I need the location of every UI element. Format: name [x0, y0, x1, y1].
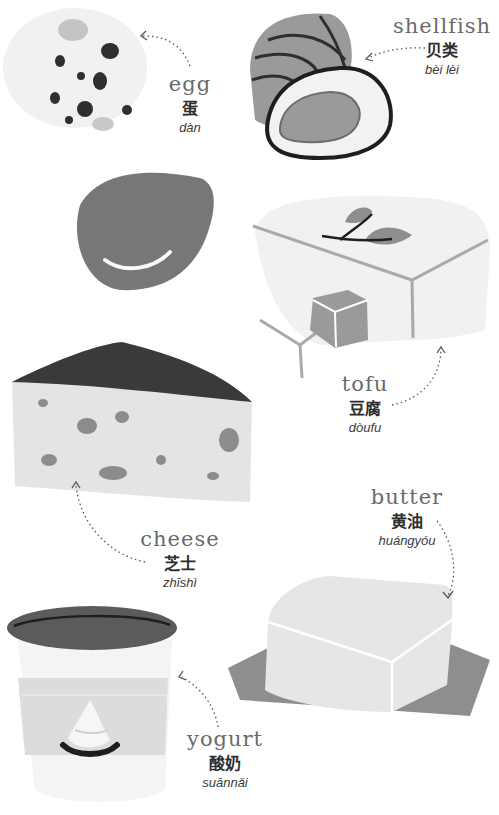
speckled-egg-illustration	[3, 8, 147, 131]
english-word: cheese	[135, 527, 225, 551]
chinese-word: 芝士	[135, 553, 225, 575]
yogurt-illustration	[7, 606, 177, 802]
label-yogurt: yogurt 酸奶 suānnǎi	[180, 727, 270, 791]
chinese-word: 豆腐	[330, 398, 400, 420]
shellfish-illustration	[250, 13, 391, 158]
chinese-word: 蛋	[160, 98, 220, 120]
pinyin: zhīshì	[135, 575, 225, 591]
chinese-word: 贝类	[392, 40, 492, 62]
english-word: yogurt	[180, 727, 270, 751]
english-word: shellfish	[392, 14, 492, 38]
label-cheese: cheese 芝士 zhīshì	[135, 527, 225, 591]
label-egg: egg 蛋 dàn	[160, 72, 220, 136]
tofu-illustration	[253, 196, 490, 378]
pinyin: huángyóu	[362, 533, 452, 549]
yogurt-arrow	[182, 677, 218, 727]
chinese-word: 酸奶	[180, 753, 270, 775]
pinyin: suānnǎi	[180, 775, 270, 791]
english-word: egg	[160, 72, 220, 96]
pinyin: bèi lèi	[392, 62, 492, 78]
label-tofu: tofu 豆腐 dòufu	[330, 372, 400, 436]
pinyin: dàn	[160, 120, 220, 136]
illustrations	[0, 0, 499, 815]
butter-illustration	[228, 576, 490, 716]
pinyin: dòufu	[330, 420, 400, 436]
label-shellfish: shellfish 贝类 bèi lèi	[392, 14, 492, 78]
english-word: butter	[362, 485, 452, 509]
label-butter: butter 黄油 huángyóu	[362, 485, 452, 549]
cheese-illustration	[12, 342, 252, 502]
chinese-word: 黄油	[362, 511, 452, 533]
brown-egg-illustration	[77, 173, 214, 290]
english-word: tofu	[330, 372, 400, 396]
egg-arrow	[142, 36, 190, 66]
